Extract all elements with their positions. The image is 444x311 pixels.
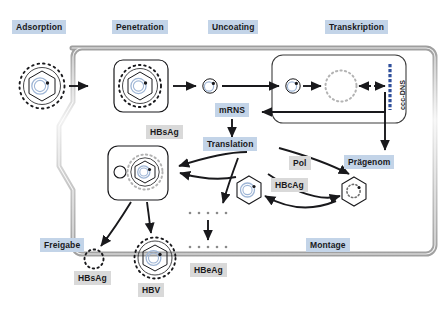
stage-label-freigabe: Freigabe — [40, 238, 84, 252]
arrow-freigabe-hbsag — [101, 202, 131, 246]
particle-rcdna-circle — [326, 71, 357, 102]
particle-nucleocapsid-mature — [237, 176, 261, 204]
protein-label-hbsag-released: HBsAg — [74, 271, 111, 285]
stage-label-translation: Translation — [203, 137, 257, 151]
stage-label-adsorption: Adsorption — [12, 20, 66, 34]
particle-virion-penetrating — [119, 65, 161, 107]
cell-membrane — [59, 48, 435, 254]
protein-label-hbcag: HBcAg — [271, 178, 308, 192]
protein-label-hbeag: HBeAg — [190, 263, 227, 277]
membrane-outline-highlight — [59, 48, 435, 254]
ccc-dns-label: ccc-DNS — [399, 80, 406, 110]
arrow-release-hbv — [147, 202, 151, 233]
stage-label-uncoating: Uncoating — [208, 20, 258, 34]
particle-core-nuclear — [286, 79, 300, 93]
arrow-cccdna-to-mrns — [262, 92, 385, 112]
penetration-vesicle — [114, 60, 168, 112]
stage-label-praegenom: Prägenom — [344, 155, 394, 169]
arrow-translation-to-hbeag — [223, 158, 238, 203]
protein-label-hbsag-intracellular: HBsAg — [146, 125, 183, 139]
stage-label-transkription: Transkription — [325, 20, 388, 34]
diagram-canvas: Adsorption Penetration Uncoating Transkr… — [0, 0, 444, 311]
hbeag-dot-row-inside — [189, 212, 228, 215]
membrane-outline-outer — [59, 48, 435, 254]
hbeag-dot-row-outside — [189, 246, 228, 249]
particle-core-uncoated — [203, 79, 217, 93]
protein-label-hbv: HBV — [138, 283, 164, 297]
particle-hbv-virion — [135, 238, 176, 279]
stage-label-mrns: mRNS — [215, 103, 249, 117]
stage-label-montage: Montage — [306, 238, 350, 252]
particle-nucleocapsid-pregenome — [342, 177, 366, 206]
vesicle-lumen-dot — [114, 166, 126, 178]
arrow-capsid-to-budding-vesicle — [180, 173, 236, 179]
particle-virion-extracellular — [20, 64, 65, 109]
particle-virion-budding — [128, 155, 163, 190]
stage-label-penetration: Penetration — [112, 20, 168, 34]
protein-label-pol: Pol — [289, 156, 311, 170]
